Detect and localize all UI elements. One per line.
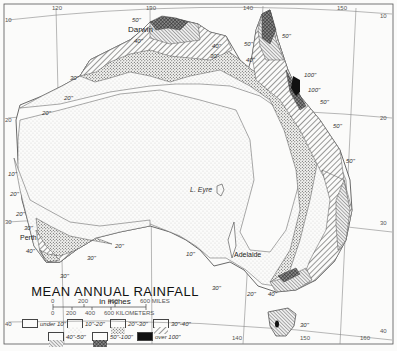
tick-lat-10-right: 10 [380, 13, 387, 19]
isohyet-label: 50" [346, 158, 356, 164]
legend-label: 50"-100" [110, 334, 133, 340]
legend-item-40-50: 40"-50" [48, 332, 86, 341]
isohyet-label: 40" [268, 291, 278, 297]
legend-label: 20"-30" [128, 321, 148, 327]
zone-50-100-darwin [150, 16, 188, 30]
legend-label: 40"-50" [66, 334, 86, 340]
legend-label: 30"-40" [171, 321, 191, 327]
isohyet-label: 100" [304, 72, 317, 78]
isohyet-label: 10" [186, 251, 196, 257]
label-perth: Perth [20, 234, 37, 241]
isohyet-label: 10" [8, 171, 18, 177]
scale-km-0: 0 [51, 310, 55, 316]
tick-lat-40: 40 [5, 321, 12, 327]
legend-item-under-10: under 10" [22, 319, 66, 328]
zone-over-100-tasmania [275, 321, 279, 328]
legend-swatch-diag-hatch [153, 319, 169, 328]
legend-swatch-fine-diag [48, 332, 64, 341]
legend-swatch-solid-black [137, 332, 153, 341]
label-lake-eyre: L. Eyre [190, 186, 212, 194]
legend-item-30-40: 30"-40" [153, 319, 191, 328]
legend-swatch-cross-hatch [92, 332, 108, 341]
legend-item-50-100: 50"-100" [92, 332, 133, 341]
tick-lat-10: 10 [5, 17, 12, 23]
legend-label: 10"-20" [85, 321, 105, 327]
isohyet-label: 30" [210, 53, 220, 59]
legend-item-20-30: 20"-30" [110, 319, 148, 328]
isohyet-label: 50" [244, 41, 254, 47]
tick-lat-20: 20 [5, 117, 12, 123]
isohyet-label: 20" [9, 191, 20, 197]
label-adelaide: Adelaide [234, 251, 261, 258]
isohyet-label: 30" [24, 225, 34, 231]
isohyet-label: 40" [246, 57, 256, 63]
isohyet-label: 50" [333, 123, 343, 129]
scale-km-400: 400 [85, 310, 96, 316]
isohyet-label: 100" [308, 87, 321, 93]
isohyet-label: 20" [63, 95, 74, 101]
legend-swatch-fine-dots [67, 319, 83, 328]
rainfall-map: Darwin Perth Adelaide L. Eyre 120 130 14… [0, 0, 397, 351]
legend-label: under 10" [40, 321, 66, 327]
tasmania [268, 308, 296, 336]
isohyet-label: 20" [114, 243, 125, 249]
isohyet-label: 50" [320, 99, 330, 105]
tick-lat-40-right: 40 [380, 328, 387, 334]
tick-lat-20-right: 20 [380, 115, 387, 121]
tick-lat-30-right: 30 [380, 220, 387, 226]
isohyet-label: 30" [300, 322, 310, 328]
scale-km-200: 200 [66, 310, 77, 316]
tick-lon-140-bottom: 140 [232, 335, 243, 341]
tick-lon-150-bottom: 150 [300, 335, 311, 341]
legend-label: over 100" [155, 334, 180, 340]
isohyet-label: 50" [132, 17, 142, 23]
legend-swatch-blank [22, 319, 38, 328]
scale-km-600: 600 KILOMETERS [104, 310, 154, 316]
isohyet-label: 40" [134, 38, 144, 44]
isohyet-label: 20" [246, 291, 257, 297]
tick-lon-140: 140 [243, 5, 254, 11]
map-subtitle: in inches [30, 297, 200, 306]
legend-item-over-100: over 100" [137, 332, 180, 341]
isohyet-label: 30" [70, 75, 80, 81]
tick-lon-130: 130 [146, 5, 157, 11]
tick-lon-150: 150 [337, 5, 348, 11]
isohyet-label: 30" [212, 285, 222, 291]
isohyet-label: 20" [15, 211, 26, 217]
legend-item-10-20: 10"-20" [67, 319, 105, 328]
label-darwin: Darwin [128, 25, 153, 34]
isohyet-label: 40" [26, 248, 36, 254]
tick-lon-120: 120 [52, 5, 63, 11]
isohyet-label: 30" [60, 273, 70, 279]
tick-lon-160-bottom: 160 [360, 335, 371, 341]
tick-lat-30: 30 [5, 219, 12, 225]
isohyet-label: 30" [87, 255, 97, 261]
isohyet-label: 50" [282, 33, 292, 39]
isohyet-label: 40" [212, 43, 222, 49]
isohyet-label: 20" [41, 110, 52, 116]
legend-swatch-dense-dots [110, 319, 126, 328]
